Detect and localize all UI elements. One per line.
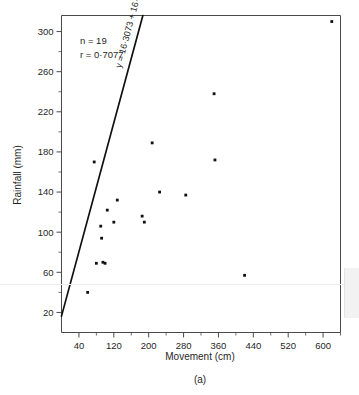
x-tick-label: 440 <box>245 340 261 351</box>
x-tick-label: 200 <box>141 340 157 351</box>
data-point <box>99 225 102 228</box>
data-point <box>214 159 217 162</box>
data-point <box>112 221 115 224</box>
x-tick-label: 520 <box>280 340 296 351</box>
annotation-n: n = 19 <box>80 35 107 46</box>
regression-line <box>62 16 143 317</box>
x-axis-ticks: 40120200280360440520600 <box>74 333 341 351</box>
x-axis-title: Movement (cm) <box>165 351 234 362</box>
data-point <box>158 191 161 194</box>
x-tick-label: 600 <box>315 340 331 351</box>
y-tick-label: 180 <box>38 146 54 157</box>
y-axis-ticks: 2060100140180220260300 <box>38 26 62 318</box>
data-point <box>184 194 187 197</box>
data-point <box>106 209 109 212</box>
data-point <box>213 92 216 95</box>
data-point <box>95 262 98 265</box>
y-tick-label: 220 <box>38 106 54 117</box>
y-axis-title: Rainfall (mm) <box>12 145 23 204</box>
x-tick-label: 360 <box>211 340 227 351</box>
figure-caption: (a) <box>194 374 206 385</box>
y-tick-label: 140 <box>38 186 54 197</box>
data-point <box>330 20 333 23</box>
data-point <box>116 199 119 202</box>
annotation-r: r = 0·7077 <box>80 49 124 60</box>
y-tick-label: 20 <box>43 307 54 318</box>
data-point <box>100 237 103 240</box>
y-tick-label: 100 <box>38 227 54 238</box>
y-tick-label: 60 <box>43 267 54 278</box>
data-point <box>243 274 246 277</box>
y-tick-label: 260 <box>38 66 54 77</box>
scan-artefact-edge <box>344 268 359 318</box>
data-point <box>151 142 154 145</box>
x-tick-label: 40 <box>74 340 85 351</box>
data-point <box>104 262 107 265</box>
data-point <box>93 161 96 164</box>
data-point <box>143 221 146 224</box>
data-point <box>141 215 144 218</box>
scan-artefact-line <box>0 284 358 285</box>
data-point <box>86 291 89 294</box>
x-tick-label: 120 <box>106 340 122 351</box>
y-tick-label: 300 <box>38 26 54 37</box>
x-tick-label: 280 <box>176 340 192 351</box>
